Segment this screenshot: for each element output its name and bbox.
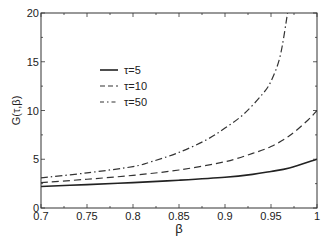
series-line-dashdot [41, 13, 288, 178]
y-tick-label: 20 [27, 7, 39, 19]
y-tick-labels: 05101520 [27, 7, 39, 214]
legend-label: τ=5 [124, 64, 141, 76]
x-tick-label: 0.9 [217, 210, 232, 222]
plot-frame [41, 13, 317, 208]
y-tick-label: 10 [27, 105, 39, 117]
y-axis-label: G(τ,β) [10, 96, 22, 126]
y-tick-label: 0 [33, 202, 39, 214]
x-tick-label: 1 [314, 210, 320, 222]
chart-container: 0.70.750.80.850.90.951 05101520 β G(τ,β)… [0, 0, 335, 241]
y-tick-label: 5 [33, 153, 39, 165]
line-chart: 0.70.750.80.850.90.951 05101520 β G(τ,β)… [0, 0, 335, 241]
plot-curves [41, 13, 317, 187]
series-line-solid [41, 159, 317, 186]
legend: τ=5τ=10τ=50 [100, 64, 147, 108]
x-tick-label: 0.8 [125, 210, 140, 222]
legend-label: τ=50 [124, 96, 147, 108]
x-tick-label: 0.95 [260, 210, 281, 222]
legend-label: τ=10 [124, 80, 147, 92]
y-tick-label: 15 [27, 56, 39, 68]
series-line-dashed [41, 111, 317, 183]
x-tick-label: 0.75 [76, 210, 97, 222]
x-axis-label: β [175, 221, 182, 236]
axis-ticks [41, 13, 317, 208]
